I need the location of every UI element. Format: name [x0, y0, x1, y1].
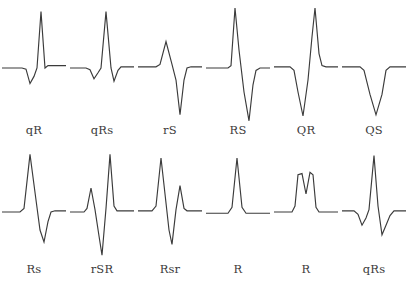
waveform-cell-qR: qR [0, 6, 68, 144]
waveform-cell-qRs-2: qRs [340, 150, 408, 288]
waveform-trace-qRs [70, 12, 134, 82]
waveform-label-Rsr: Rsr [136, 262, 204, 276]
waveform-label-rSR: rSR [68, 262, 136, 276]
waveform-trace-QS [342, 67, 406, 115]
waveform-cell-rSR: rSR [68, 150, 136, 288]
waveform-label-R-notched: R [272, 262, 340, 276]
waveform-label-qR: qR [0, 123, 68, 137]
waveform-label-RS: RS [204, 123, 272, 137]
waveform-trace-RS [206, 8, 270, 121]
waveform-label-QR: QR [272, 123, 340, 137]
waveform-trace-qR [2, 12, 66, 84]
waveform-cell-R: R [204, 150, 272, 288]
waveform-label-Rs: Rs [0, 262, 68, 276]
waveform-trace-R-notched [274, 172, 338, 212]
waveform-label-qRs: qRs [68, 123, 136, 137]
waveform-label-QS: QS [340, 123, 408, 137]
waveform-cell-QR: QR [272, 6, 340, 144]
waveform-cell-QS: QS [340, 6, 408, 144]
waveform-label-rS: rS [136, 123, 204, 137]
waveform-cell-RS: RS [204, 6, 272, 144]
waveform-trace-rSR [70, 154, 134, 255]
waveform-trace-rS [138, 42, 202, 115]
waveform-trace-QR [274, 8, 338, 116]
waveform-trace-Rsr [138, 158, 202, 244]
qrs-nomenclature-figure: qR qRs rS RS QR [0, 0, 413, 294]
waveform-row-2: Rs rSR Rsr R R [0, 150, 413, 288]
waveform-trace-R [206, 158, 270, 213]
waveform-cell-Rsr: Rsr [136, 150, 204, 288]
waveform-trace-qRs-2 [342, 156, 406, 235]
waveform-cell-qRs: qRs [68, 6, 136, 144]
waveform-trace-Rs [2, 154, 66, 242]
waveform-cell-rS: rS [136, 6, 204, 144]
waveform-label-R: R [204, 262, 272, 276]
waveform-label-qRs-2: qRs [340, 262, 408, 276]
waveform-cell-Rs: Rs [0, 150, 68, 288]
waveform-cell-R-notched: R [272, 150, 340, 288]
waveform-row-1: qR qRs rS RS QR [0, 6, 413, 144]
